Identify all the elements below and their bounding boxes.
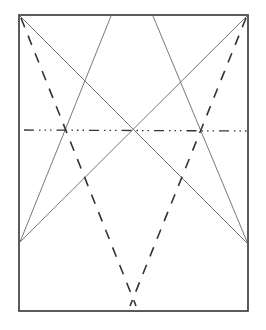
dash-dot-line bbox=[24, 130, 248, 131]
dashed-left-to-bottom bbox=[21, 18, 136, 306]
thin-lines bbox=[19, 15, 248, 244]
dashed-lines bbox=[21, 18, 246, 306]
dashed-right-to-bottom bbox=[130, 18, 246, 306]
diagonal-topright-to-left bbox=[20, 15, 248, 242]
geometric-diagram bbox=[0, 0, 266, 330]
outer-frame bbox=[19, 15, 248, 311]
